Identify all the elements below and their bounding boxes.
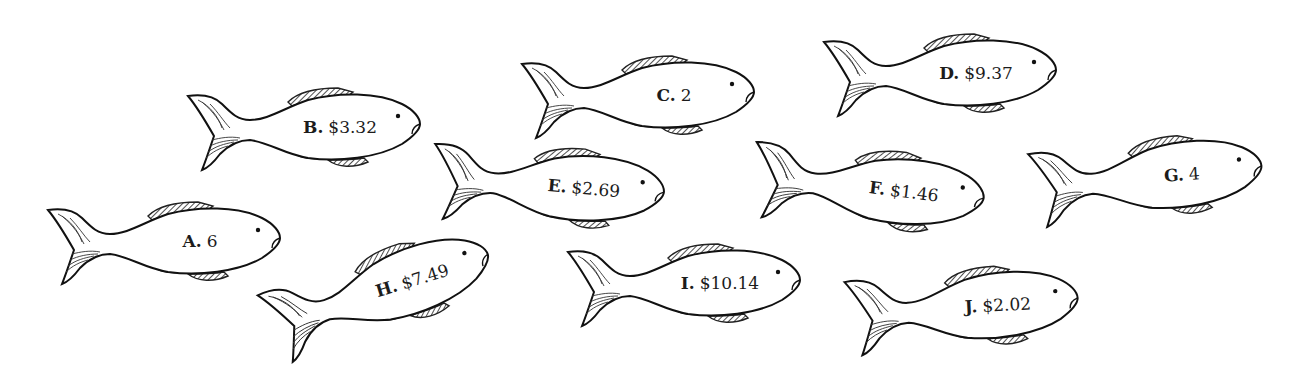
fish-letter: J. [964,296,978,317]
fish-label: I. $10.14 [660,268,780,298]
fish-letter: G. [1163,164,1184,185]
fish-g: G. 4 [1027,124,1265,232]
fish-value: $3.32 [328,117,377,137]
fish-letter: C. [657,85,676,105]
fish-letter: I. [681,273,695,293]
fish-value: $9.37 [964,63,1013,83]
fish-d: D. $9.37 [824,28,1056,120]
fish-letter: F. [868,177,887,199]
fish-letter: D. [939,63,959,83]
fish-label: D. $9.37 [916,58,1036,88]
fish-value: 6 [207,231,218,251]
fish-label: A. 6 [140,226,260,256]
fish-label: C. 2 [614,80,734,110]
fish-letter: H. [373,276,400,302]
fish-h: H. $7.49 [254,214,503,370]
fish-b: B. $3.32 [188,82,420,174]
fish-value: $2.02 [982,293,1032,316]
fish-label: B. $3.32 [280,112,400,142]
fish-f: F. $1.46 [747,128,988,248]
fish-letter: E. [547,175,568,197]
fish-a: A. 6 [48,196,280,288]
fish-value: $10.14 [700,273,759,293]
fish-c: C. 2 [522,50,754,142]
fish-letter: A. [183,231,202,251]
fish-j: J. $2.02 [844,256,1080,360]
fish-i: I. $10.14 [568,238,800,330]
fish-value: 4 [1188,163,1200,184]
fish-label: J. $2.02 [937,287,1058,323]
fish-value: 2 [681,85,692,105]
fish-value: $2.69 [571,177,621,201]
fish-scene: A. 6 B. $3.32 C. 2 D. $9.37 E. $2.69 F. … [0,0,1296,379]
fish-letter: B. [303,117,323,137]
fish-value: $1.46 [889,180,940,206]
